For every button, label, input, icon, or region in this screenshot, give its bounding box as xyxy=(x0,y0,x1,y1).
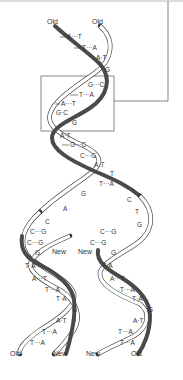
bp-7: A···T xyxy=(61,100,76,107)
ld-bp-8: G xyxy=(72,306,77,313)
fork-right-2: T xyxy=(135,208,139,215)
bp-13: A·T xyxy=(94,161,105,168)
rd-bp-6: T···A xyxy=(120,286,135,293)
label-bottom-new-right: New xyxy=(86,350,101,357)
parent-helix xyxy=(40,26,140,212)
left-daughter-helix: C···G C···G G T·A A···T T···A T·A G A·T … xyxy=(20,212,78,354)
ld-bp-7: T·A xyxy=(56,295,67,302)
rd-bp-10: T···A xyxy=(118,328,133,335)
ld-bp-3: G xyxy=(35,249,40,256)
bp-1: A···T xyxy=(67,33,82,40)
rd-bp-9: A·T xyxy=(133,317,144,324)
bp-9: G xyxy=(72,119,77,126)
bp-4: G xyxy=(105,66,110,73)
label-mid-new-right: New xyxy=(78,248,93,255)
bp-3: A·T xyxy=(96,54,107,61)
right-daughter-helix: C···G C···G G T·A A···T T···A T·A G A·T … xyxy=(90,196,153,354)
label-bottom-old-right: Old xyxy=(131,350,142,357)
rd-bp-8: G xyxy=(148,306,153,313)
bp-6: T···A xyxy=(79,91,94,98)
rd-bp-1: C···G xyxy=(100,228,116,235)
dna-replication-diagram: A···T T···A A·T G G···C T···A A···T G·C … xyxy=(0,0,183,380)
bp-10: A·T xyxy=(60,132,71,139)
bp-14: T xyxy=(110,170,114,177)
bp-2: T···A xyxy=(82,44,97,51)
ld-bp-6: T···A xyxy=(45,286,60,293)
ld-bp-1: C···G xyxy=(30,228,46,235)
bp-11: G···C xyxy=(70,141,87,148)
ld-bp-5: A···T xyxy=(32,275,47,282)
ld-bp-11: T···A xyxy=(30,339,45,346)
rd-bp-7: T·A xyxy=(132,295,143,302)
fork-left-2: A xyxy=(63,205,68,212)
bp-12: C···G xyxy=(80,152,96,159)
label-bottom-old-left: Old xyxy=(10,350,21,357)
label-top-old-left: Old xyxy=(47,18,58,25)
rd-bp-4: T·A xyxy=(102,262,113,269)
bp-15: T···A xyxy=(99,180,114,187)
fork-left-3: C xyxy=(45,218,50,225)
ld-bp-2: C···G xyxy=(27,239,43,246)
rd-bp-2: C···G xyxy=(90,239,106,246)
fork-right-3: G xyxy=(137,221,142,228)
rd-bp-11: T···A xyxy=(120,339,135,346)
ld-bp-4: T·A xyxy=(25,262,36,269)
label-mid-new-left: New xyxy=(52,248,67,255)
bp-8: G·C xyxy=(56,109,68,116)
fork-left-1: G xyxy=(81,190,86,197)
ld-bp-10: T···A xyxy=(42,328,57,335)
rd-bp-3: G xyxy=(111,249,116,256)
fork-right-1: C xyxy=(127,196,132,203)
label-bottom-new-left: New xyxy=(53,350,68,357)
label-top-old-right: Old xyxy=(92,18,103,25)
rd-bp-5: A···T xyxy=(110,275,125,282)
bp-5: G···C xyxy=(88,81,105,88)
ld-bp-9: A·T xyxy=(56,317,67,324)
